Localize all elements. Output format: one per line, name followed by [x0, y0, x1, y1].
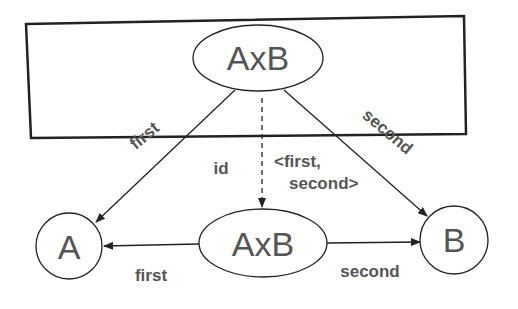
node-a-label: A — [58, 228, 81, 266]
node-b-label: B — [443, 221, 466, 259]
label-top-to-b: second — [359, 105, 417, 158]
visible-frame — [27, 17, 231, 138]
node-middle-product-label: AxB — [232, 225, 294, 263]
label-top-to-a: first — [126, 118, 163, 153]
frame-rectangle — [27, 18, 232, 19]
label-id: id — [213, 159, 228, 178]
edge-middle-to-a — [104, 244, 199, 246]
node-top-product-label: AxB — [227, 39, 289, 77]
frame-polygon — [27, 16, 232, 138]
edge-top-to-a — [96, 90, 235, 222]
enclosing-box — [27, 20, 233, 138]
label-middle-to-a: first — [135, 266, 167, 285]
label-pair-line1: <first, — [274, 152, 321, 171]
label-pair-line2: second> — [289, 174, 359, 193]
edge-middle-to-b — [327, 242, 420, 243]
product-diagram: AxB AxB A B first second id <first, seco… — [0, 0, 518, 309]
label-middle-to-b: second — [340, 262, 400, 281]
